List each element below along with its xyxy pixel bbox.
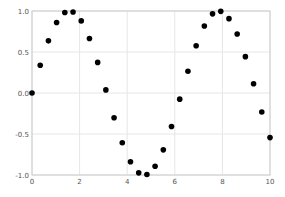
data-point	[218, 9, 224, 15]
data-point	[54, 20, 60, 26]
x-tick-label: 4	[125, 178, 130, 186]
y-tick-label: -1.0	[15, 172, 29, 180]
data-point	[169, 124, 175, 130]
y-tick-label: 0.0	[18, 90, 29, 98]
data-point	[185, 68, 191, 74]
data-point	[37, 62, 43, 68]
x-axis-ticks: 0246810	[30, 178, 275, 186]
x-tick-label: 8	[220, 178, 224, 186]
data-point	[128, 159, 134, 165]
data-point	[46, 38, 52, 44]
data-point	[136, 170, 142, 176]
data-point	[210, 11, 216, 17]
data-point	[251, 81, 257, 87]
data-point	[144, 172, 150, 178]
data-point	[95, 60, 101, 66]
data-point	[226, 16, 232, 22]
x-tick-label: 0	[30, 178, 34, 186]
data-point	[234, 31, 240, 37]
data-point	[103, 87, 109, 93]
data-point	[119, 140, 125, 146]
data-point	[193, 43, 199, 49]
grid-lines	[32, 11, 270, 175]
data-point	[78, 18, 84, 24]
scatter-chart: 0246810 1.00.50.0-0.5-1.0	[0, 0, 285, 197]
x-tick-label: 10	[266, 178, 275, 186]
data-point	[111, 115, 117, 121]
data-point	[177, 96, 183, 102]
y-tick-label: -0.5	[15, 131, 29, 139]
data-point	[267, 135, 273, 141]
y-tick-label: 1.0	[18, 8, 29, 16]
x-tick-label: 6	[173, 178, 178, 186]
data-point	[62, 10, 68, 16]
x-tick-label: 2	[77, 178, 81, 186]
data-point	[161, 147, 167, 153]
data-point	[202, 23, 208, 29]
data-point	[259, 109, 265, 115]
data-point	[152, 164, 158, 170]
y-tick-label: 0.5	[18, 49, 29, 57]
data-point	[29, 90, 35, 96]
data-point	[87, 36, 93, 42]
data-point	[70, 9, 76, 15]
data-point	[243, 54, 249, 60]
y-axis-ticks: 1.00.50.0-0.5-1.0	[15, 8, 29, 180]
